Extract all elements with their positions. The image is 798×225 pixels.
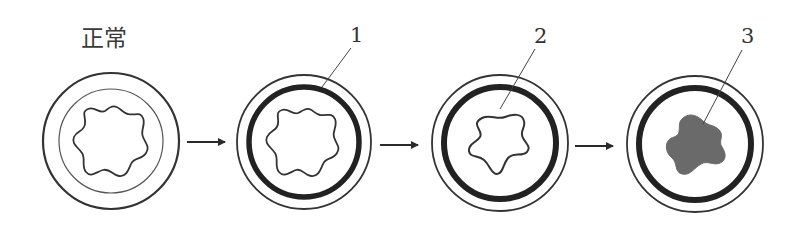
outer-ring [432, 75, 568, 211]
normal-label: 正常 [81, 25, 127, 51]
callout-label-2: 2 [534, 24, 547, 48]
progression-diagram: 正常 1 2 3 [0, 0, 798, 225]
callout-label-3: 3 [741, 24, 754, 48]
wavy-lumen [266, 109, 338, 176]
callout-label-1: 1 [350, 23, 363, 47]
stage-3 [627, 50, 763, 212]
occluded-lumen [666, 115, 725, 174]
outer-ring [43, 73, 179, 209]
stage-2 [432, 49, 568, 211]
stage-1 [237, 75, 371, 209]
wavy-lumen [73, 106, 147, 176]
callout-line-2 [500, 49, 535, 109]
callout-line-1 [322, 48, 351, 87]
stage-normal [43, 73, 179, 209]
inner-ring [59, 89, 163, 193]
outer-ring [237, 75, 371, 209]
thickened-ring [444, 87, 556, 199]
narrowed-lumen [469, 115, 529, 174]
thickened-ring [249, 87, 359, 197]
